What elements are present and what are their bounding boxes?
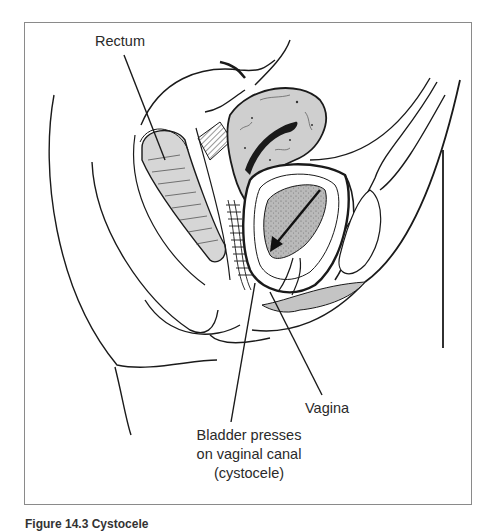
cystocele-label-line2: on vaginal canal bbox=[169, 445, 329, 464]
cystocele-label-line1: Bladder presses bbox=[169, 426, 329, 445]
bladder bbox=[243, 164, 353, 295]
figure-caption: Figure 14.3 Cystocele bbox=[25, 517, 148, 531]
rectum-label: Rectum bbox=[95, 32, 145, 51]
cystocele-label: Bladder presses on vaginal canal (cystoc… bbox=[169, 426, 329, 483]
bladder-leader bbox=[231, 283, 255, 422]
cystocele-label-line3: (cystocele) bbox=[169, 464, 329, 483]
vagina-label: Vagina bbox=[305, 399, 349, 418]
